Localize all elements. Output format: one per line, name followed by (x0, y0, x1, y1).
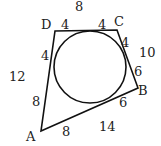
tangent-label-b-right: 6 (134, 64, 142, 79)
side-label-ad: 12 (9, 69, 26, 84)
tangent-label-c-right: 4 (121, 35, 129, 50)
side-label-ba: 14 (99, 119, 116, 134)
inscribed-circle (54, 31, 126, 103)
vertex-label-d: D (41, 17, 51, 32)
vertex-label-a: A (25, 129, 36, 144)
tangent-label-a-left: 8 (32, 94, 40, 109)
tangent-label-c-top: 4 (98, 17, 106, 32)
vertex-label-c: C (114, 14, 124, 29)
side-label-dc: 8 (75, 0, 83, 14)
tangent-label-d-left: 4 (41, 48, 49, 63)
tangent-label-a-bottom: 8 (62, 124, 70, 139)
tangent-label-d-top: 4 (61, 17, 69, 32)
tangential-quadrilateral-diagram: D C B A 4 4 4 6 6 8 8 4 8 10 14 12 (0, 0, 161, 146)
tangent-label-b-bottom: 6 (119, 95, 127, 110)
vertex-label-b: B (138, 83, 148, 98)
side-label-cb: 10 (139, 45, 156, 60)
